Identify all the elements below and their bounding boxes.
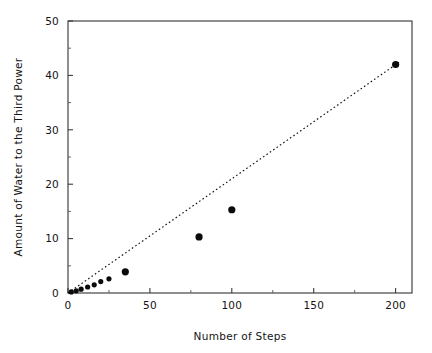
data-point-marker: [69, 289, 74, 294]
y-tick-label: 50: [45, 15, 59, 27]
data-point-marker: [122, 268, 129, 275]
y-axis-title: Amount of Water to the Third Power: [12, 57, 24, 256]
y-tick-label: 40: [45, 69, 59, 81]
data-point-marker: [106, 276, 111, 281]
x-tick-label: 0: [65, 299, 72, 311]
y-tick-label: 30: [45, 124, 59, 136]
data-point-marker: [85, 284, 90, 289]
x-tick-label: 150: [303, 299, 324, 311]
data-point-marker: [195, 233, 202, 240]
data-point-marker: [392, 61, 399, 68]
y-tick-label: 0: [52, 287, 59, 299]
x-tick-label: 50: [143, 299, 157, 311]
y-tick-label: 20: [45, 178, 59, 190]
x-axis-title: Number of Steps: [194, 330, 287, 342]
data-point-marker: [74, 288, 79, 293]
chart-canvas: 01020304050 050100150200 Number of Steps…: [0, 0, 432, 353]
scatter-chart-figure: 01020304050 050100150200 Number of Steps…: [0, 0, 432, 353]
x-tick-label: 200: [385, 299, 406, 311]
y-tick-label: 10: [45, 232, 59, 244]
x-tick-label: 100: [221, 299, 242, 311]
data-point-marker: [79, 287, 84, 292]
data-point-marker: [92, 282, 97, 287]
data-point-marker: [98, 279, 103, 284]
data-point-marker: [228, 206, 235, 213]
